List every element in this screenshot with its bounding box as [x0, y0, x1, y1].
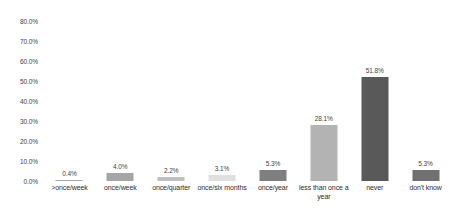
x-axis-category-label: don't know: [398, 183, 451, 192]
y-axis-tick: 50.0%: [0, 78, 38, 85]
bar[interactable]: [310, 125, 337, 181]
x-axis-category-label: once/six months: [195, 183, 250, 192]
y-axis-tick: 10.0%: [0, 158, 38, 165]
x-axis-category-label: once/year: [245, 183, 300, 192]
bar[interactable]: [158, 177, 185, 181]
y-axis-tick: 60.0%: [0, 58, 38, 65]
bar[interactable]: [107, 173, 134, 181]
bar-value-label: 0.4%: [43, 170, 95, 177]
y-axis-tick: 0.0%: [0, 178, 38, 185]
y-axis-tick: 20.0%: [0, 138, 38, 145]
bar[interactable]: [56, 180, 83, 181]
y-axis-tick: 70.0%: [0, 38, 38, 45]
bar[interactable]: [412, 170, 439, 181]
bar-value-label: 4.0%: [94, 163, 146, 170]
bar-value-label: 51.8%: [349, 67, 401, 74]
y-axis-tick: 30.0%: [0, 118, 38, 125]
bar-value-label: 5.3%: [400, 160, 451, 167]
bar[interactable]: [209, 175, 236, 181]
bar-chart: 80.0%70.0%60.0%50.0%40.0%30.0%20.0%10.0%…: [0, 0, 451, 220]
bar[interactable]: [361, 77, 388, 181]
x-axis-category-label: never: [347, 183, 402, 192]
x-axis-category-label: once/week: [93, 183, 148, 192]
x-axis-category-label: once/quarter: [144, 183, 199, 192]
bar-value-label: 2.2%: [145, 167, 197, 174]
y-axis-tick: 80.0%: [0, 18, 38, 25]
x-axis-category-label: less than once a year: [296, 183, 351, 201]
x-axis-category-label: >once/week: [42, 183, 97, 192]
y-axis-tick: 40.0%: [0, 98, 38, 105]
bar[interactable]: [259, 170, 286, 181]
bar-value-label: 3.1%: [196, 165, 248, 172]
bar-value-label: 5.3%: [247, 160, 299, 167]
bar-value-label: 28.1%: [298, 115, 350, 122]
y-axis: 80.0%70.0%60.0%50.0%40.0%30.0%20.0%10.0%…: [0, 0, 40, 220]
plot-area: 0.4%>once/week4.0%once/week2.2%once/quar…: [44, 0, 451, 220]
